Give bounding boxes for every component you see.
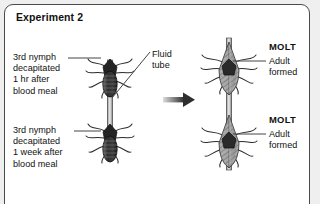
- diagram-artwork: [0, 0, 320, 204]
- label-nymph-1week: 3rd nymph decapitated 1 week after blood…: [13, 125, 63, 170]
- label-fluid-tube: Fluid tube: [152, 49, 172, 71]
- left-figure-group: [86, 59, 134, 163]
- label-adult-formed-top: Adult formed: [269, 56, 297, 78]
- label-adult-formed-bottom: Adult formed: [269, 129, 297, 151]
- right-figure-group: [201, 38, 257, 170]
- label-nymph-1hr: 3rd nymph decapitated 1 hr after blood m…: [13, 52, 60, 97]
- label-molt-bottom: MOLT: [269, 114, 296, 125]
- diagram-root: Experiment 2: [0, 0, 320, 204]
- label-molt-top: MOLT: [269, 41, 296, 52]
- transition-arrow: [163, 93, 195, 107]
- leader-line-fluid-tube: [112, 52, 150, 98]
